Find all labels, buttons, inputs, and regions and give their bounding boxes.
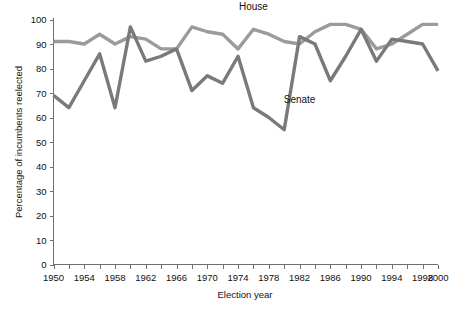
x-tick-label: 1978: [258, 272, 279, 283]
series-lines: [54, 24, 439, 129]
y-tick-label: 20: [36, 210, 47, 221]
y-axis-ticks: 0102030405060708090100: [31, 14, 54, 270]
series-label-house: House: [239, 1, 268, 12]
series-label-senate: Senate: [284, 94, 316, 105]
x-axis-ticks: 1950195419581962196619701974197819821986…: [43, 265, 449, 283]
series-line-house: [54, 24, 439, 49]
x-tick-label: 2000: [427, 272, 448, 283]
x-tick-label: 1986: [320, 272, 341, 283]
x-tick-label: 1994: [381, 272, 402, 283]
y-tick-label: 80: [36, 63, 47, 74]
y-tick-label: 100: [31, 14, 47, 25]
x-tick-label: 1982: [289, 272, 310, 283]
x-tick-label: 1990: [351, 272, 372, 283]
y-axis-title: Percentage of incumbents reelected: [13, 66, 24, 218]
x-axis-title: Election year: [218, 289, 273, 300]
y-tick-label: 40: [36, 161, 47, 172]
line-chart: 0102030405060708090100 19501954195819621…: [0, 0, 460, 316]
x-tick-label: 1950: [43, 272, 64, 283]
series-annotations: HouseSenate: [239, 1, 316, 105]
y-tick-label: 50: [36, 137, 47, 148]
x-tick-label: 1958: [104, 272, 125, 283]
x-tick-label: 1962: [135, 272, 156, 283]
y-tick-label: 10: [36, 235, 47, 246]
x-tick-label: 1970: [197, 272, 218, 283]
x-tick-label: 1974: [227, 272, 248, 283]
y-tick-label: 60: [36, 112, 47, 123]
y-tick-label: 70: [36, 88, 47, 99]
y-tick-label: 90: [36, 39, 47, 50]
x-tick-label: 1966: [166, 272, 187, 283]
x-tick-label: 1954: [74, 272, 95, 283]
y-tick-label: 30: [36, 186, 47, 197]
chart-container: 0102030405060708090100 19501954195819621…: [0, 0, 460, 316]
y-tick-label: 0: [41, 259, 46, 270]
